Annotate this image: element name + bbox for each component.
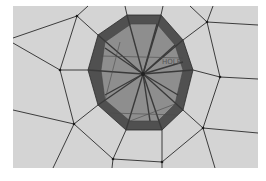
hole-label: HOLE bbox=[162, 58, 181, 66]
mesh-diagram: HOLE bbox=[0, 0, 266, 181]
mesh-svg: HOLE bbox=[0, 0, 266, 181]
center-node bbox=[141, 72, 145, 76]
